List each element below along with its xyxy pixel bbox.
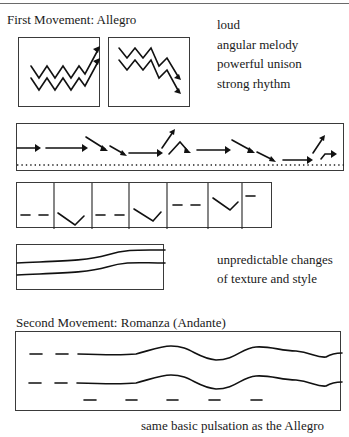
descriptor: powerful unison xyxy=(217,56,302,76)
romanza-wave-figure xyxy=(15,331,341,411)
texture-curves-icon xyxy=(17,245,165,291)
first-movement-descriptors: loud angular melody powerful unison stro… xyxy=(217,17,302,95)
romanza-wave-icon xyxy=(16,332,342,412)
romanza-note: same basic pulsation as the Allegro xyxy=(141,418,324,433)
falling-zigzag-icon xyxy=(109,38,191,108)
descriptor: strong rhythm xyxy=(217,76,302,96)
falling-zigzag-figure xyxy=(108,37,190,107)
texture-note-line-1: unpredictable changes xyxy=(217,252,333,267)
rising-zigzag-icon xyxy=(19,38,101,108)
rising-zigzag-figure xyxy=(18,37,100,107)
descriptor: angular melody xyxy=(217,37,302,57)
top-rule xyxy=(0,3,349,4)
arrow-strip-icon xyxy=(17,124,345,172)
texture-lines-figure xyxy=(16,244,164,290)
dash-vee-figure xyxy=(16,182,272,228)
second-movement-title: Second Movement: Romanza (Andante) xyxy=(16,315,226,330)
dash-vee-icon xyxy=(17,183,273,229)
arrow-rhythm-figure xyxy=(16,123,344,171)
descriptor: loud xyxy=(217,17,302,37)
first-movement-title: First Movement: Allegro xyxy=(7,12,136,27)
texture-note-line-2: of texture and style xyxy=(217,271,317,286)
